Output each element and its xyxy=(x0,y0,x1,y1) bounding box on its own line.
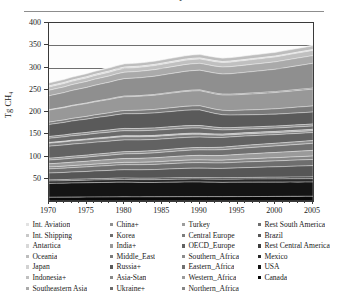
y-tick-label: 300 xyxy=(29,62,41,71)
x-tick-minor xyxy=(252,200,253,203)
y-tick-label: 100 xyxy=(29,151,41,160)
x-tick-mark xyxy=(274,200,275,204)
x-tick-minor xyxy=(297,200,298,203)
legend-column: Int. AviationInt. ShippingAntarticaOcean… xyxy=(26,220,110,293)
legend-swatch-icon xyxy=(258,276,261,279)
x-tick-minor xyxy=(229,200,230,203)
legend-label: Rest Central America xyxy=(264,241,329,251)
stacked-area-chart-figure: 50100150200250300350400Tg CH₄ 1970197519… xyxy=(0,14,351,308)
legend-swatch-icon xyxy=(182,223,185,226)
legend-item[interactable]: Asia-Stan xyxy=(110,273,182,283)
x-tick-minor xyxy=(78,200,79,203)
legend-swatch-icon xyxy=(182,276,185,279)
legend-swatch-icon xyxy=(110,265,113,268)
legend-item[interactable]: Brazil xyxy=(258,231,338,241)
legend-item[interactable]: Russia+ xyxy=(110,262,182,272)
x-tick-mark xyxy=(48,200,49,204)
x-tick-mark xyxy=(161,200,162,204)
legend-item[interactable]: Ukraine+ xyxy=(110,284,182,294)
legend-label: OECD_Europe xyxy=(188,241,234,251)
x-tick-label: 1995 xyxy=(229,206,245,215)
legend-item[interactable]: Middle_East xyxy=(110,252,182,262)
x-tick-minor xyxy=(101,200,102,203)
x-tick-label: 1990 xyxy=(191,206,207,215)
legend-swatch-icon xyxy=(26,244,29,247)
legend-item[interactable]: Japan xyxy=(26,262,110,272)
caption-divider xyxy=(24,11,324,12)
legend-label: China+ xyxy=(116,220,138,230)
legend-label: USA xyxy=(264,262,279,272)
y-axis-title: Tg CH₄ xyxy=(3,83,13,127)
legend-item[interactable]: Antartica xyxy=(26,241,110,251)
legend-swatch-icon xyxy=(182,265,185,268)
caption-text: as much as ten times that much each year xyxy=(22,0,198,1)
legend-swatch-icon xyxy=(26,265,29,268)
legend-label: Brazil xyxy=(264,231,283,241)
x-tick-minor xyxy=(191,200,192,203)
x-tick-label: 1980 xyxy=(115,206,131,215)
legend-item[interactable]: Turkey xyxy=(182,220,258,230)
legend-item[interactable]: Mexico xyxy=(258,252,338,262)
x-tick-mark xyxy=(123,200,124,204)
legend-swatch-icon xyxy=(182,255,185,258)
y-tick-label: 250 xyxy=(29,84,41,93)
legend-label: Southern_Africa xyxy=(188,252,239,262)
x-tick-minor xyxy=(116,200,117,203)
legend-swatch-icon xyxy=(258,255,261,258)
legend-item[interactable]: Int. Shipping xyxy=(26,231,110,241)
legend-item[interactable]: USA xyxy=(258,262,338,272)
legend-label: Central Europe xyxy=(188,231,234,241)
x-tick-minor xyxy=(289,200,290,203)
x-tick-minor xyxy=(221,200,222,203)
x-tick-mark xyxy=(86,200,87,204)
legend-column: China+KoreaIndia+Middle_EastRussia+Asia-… xyxy=(110,220,182,293)
y-tick-label: 200 xyxy=(29,107,41,116)
legend-item[interactable]: Canada xyxy=(258,273,338,283)
x-tick-minor xyxy=(244,200,245,203)
legend-swatch-icon xyxy=(26,287,29,290)
legend-item[interactable]: Int. Aviation xyxy=(26,220,110,230)
x-tick-minor xyxy=(304,200,305,203)
legend-swatch-icon xyxy=(258,223,261,226)
x-tick-minor xyxy=(184,200,185,203)
legend-swatch-icon xyxy=(258,234,261,237)
legend-item[interactable]: Korea xyxy=(110,231,182,241)
legend-label: Southeastern Asia xyxy=(32,284,87,294)
legend-item[interactable]: Northern_Africa xyxy=(182,284,258,294)
legend-swatch-icon xyxy=(110,244,113,247)
x-tick-mark xyxy=(237,200,238,204)
legend-label: Indonesia+ xyxy=(32,273,66,283)
legend-item[interactable]: Eastern_Africa xyxy=(182,262,258,272)
legend-item[interactable]: Rest Central America xyxy=(258,241,338,251)
legend-swatch-icon xyxy=(110,276,113,279)
legend-swatch-icon xyxy=(26,276,29,279)
x-tick-minor xyxy=(93,200,94,203)
y-tick-label: 400 xyxy=(29,18,41,27)
legend-label: Middle_East xyxy=(116,252,155,262)
legend-item[interactable]: Central Europe xyxy=(182,231,258,241)
legend-column: TurkeyCentral EuropeOECD_EuropeSouthern_… xyxy=(182,220,258,293)
legend-item[interactable]: Southeastern Asia xyxy=(26,284,110,294)
x-tick-label: 1975 xyxy=(78,206,94,215)
x-tick-minor xyxy=(63,200,64,203)
legend-swatch-icon xyxy=(110,223,113,226)
legend-label: Mexico xyxy=(264,252,287,262)
legend-column: Rest South AmericaBrazilRest Central Ame… xyxy=(258,220,338,293)
legend-swatch-icon xyxy=(182,234,185,237)
legend-item[interactable]: OECD_Europe xyxy=(182,241,258,251)
legend-item[interactable]: China+ xyxy=(110,220,182,230)
legend-item[interactable]: Southern_Africa xyxy=(182,252,258,262)
chart-legend: Int. AviationInt. ShippingAntarticaOcean… xyxy=(26,220,338,293)
legend-item[interactable]: Western_Africa xyxy=(182,273,258,283)
y-tick-label: 150 xyxy=(29,129,41,138)
x-tick-minor xyxy=(56,200,57,203)
x-tick-minor xyxy=(108,200,109,203)
legend-label: Oceania xyxy=(32,252,57,262)
legend-item[interactable]: Rest South America xyxy=(258,220,338,230)
x-tick-minor xyxy=(71,200,72,203)
legend-swatch-icon xyxy=(182,287,185,290)
x-tick-minor xyxy=(267,200,268,203)
legend-item[interactable]: Indonesia+ xyxy=(26,273,110,283)
legend-item[interactable]: India+ xyxy=(110,241,182,251)
legend-item[interactable]: Oceania xyxy=(26,252,110,262)
